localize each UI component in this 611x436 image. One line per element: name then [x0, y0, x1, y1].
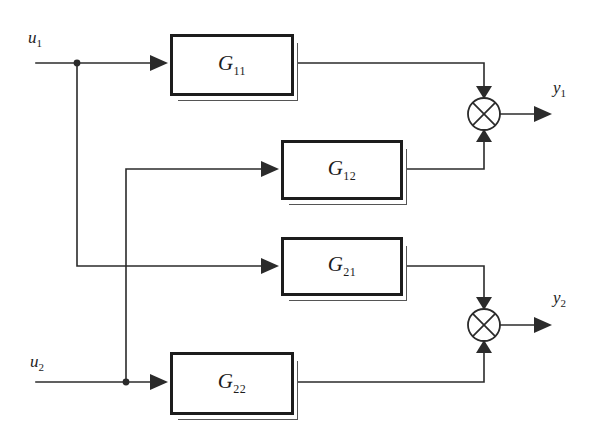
wire-G11-to-sum1: [294, 63, 492, 99]
wire-segment: [403, 139, 484, 169]
transfer-block-G21-label: G21: [328, 252, 356, 280]
wire-segment: [294, 350, 484, 382]
arrow-head-G22-input: [150, 374, 168, 390]
transfer-block-G11[interactable]: G11: [170, 34, 294, 96]
signal-label-u1: u1: [28, 28, 42, 49]
summing-junction-y2: [468, 309, 500, 341]
wire-G12-to-sum1: [403, 129, 492, 169]
arrow-head-sum1-bottom: [476, 129, 492, 142]
transfer-block-G12[interactable]: G12: [281, 140, 403, 200]
transfer-block-G21-inner: G21: [284, 240, 400, 293]
arrow-head-sum2-bottom: [476, 340, 492, 353]
wire-u2-branch-to-G12: [126, 161, 279, 382]
branch-dot-u1: [74, 60, 81, 67]
wire-segment: [294, 63, 484, 90]
summing-junction-y1: [468, 98, 500, 130]
wire-u2-to-G22: [36, 374, 168, 390]
transfer-block-G22-inner: G22: [173, 355, 291, 412]
arrow-head-G12-input: [261, 161, 279, 177]
wire-sum2-to-y2: [500, 317, 552, 333]
transfer-block-G11-label: G11: [218, 51, 246, 79]
transfer-block-G12-label: G12: [328, 156, 356, 184]
wire-segment: [126, 169, 272, 382]
arrow-head-G21-input: [261, 258, 279, 274]
wire-segment: [403, 266, 484, 301]
signal-label-y2: y2: [553, 288, 566, 309]
arrow-head-sum1-top: [476, 86, 492, 99]
signal-label-u2: u2: [30, 352, 44, 373]
arrow-head-y2-output: [534, 317, 552, 333]
transfer-block-G22-label: G22: [218, 369, 246, 397]
wire-G22-to-sum2: [294, 340, 492, 382]
transfer-block-G12-inner: G12: [284, 143, 400, 197]
diagram-wiring-layer: [0, 0, 611, 436]
signal-label-y1: y1: [553, 78, 566, 99]
arrow-head-G11-input: [150, 55, 168, 71]
block-diagram-canvas: G11 G12 G21 G22 u1 u2 y1 y2: [0, 0, 611, 436]
wire-G21-to-sum2: [403, 266, 492, 310]
wire-sum1-to-y1: [500, 106, 552, 122]
transfer-block-G21[interactable]: G21: [281, 237, 403, 296]
arrow-head-y1-output: [534, 106, 552, 122]
branch-dot-u2: [123, 379, 130, 386]
transfer-block-G22[interactable]: G22: [170, 352, 294, 415]
wire-u1-to-G11: [36, 55, 168, 71]
transfer-block-G11-inner: G11: [173, 37, 291, 93]
arrow-head-sum2-top: [476, 297, 492, 310]
